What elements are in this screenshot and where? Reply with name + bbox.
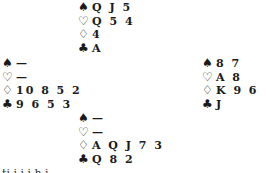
spade-icon: ♠ [78, 112, 92, 126]
heart-icon: ♡ [78, 15, 92, 29]
north-spades: ♠Q J 5 [78, 1, 135, 15]
diamond-icon: ♢ [78, 28, 92, 42]
north-hand: ♠Q J 5 ♡Q 5 4 ♢4 ♣A [78, 1, 135, 55]
west-hearts: ♡— [2, 71, 82, 85]
club-icon: ♣ [2, 98, 16, 112]
south-hand: ♠— ♡— ♢A Q J 7 3 ♣Q 8 2 [78, 112, 164, 166]
spade-icon: ♠ [202, 57, 216, 71]
west-hand: ♠— ♡— ♢10 8 5 2 ♣9 6 5 3 [2, 57, 82, 111]
west-spades: ♠— [2, 57, 82, 71]
east-hand: ♠8 7 ♡A 8 ♢K 9 6 ♣J [202, 57, 259, 111]
club-icon: ♣ [202, 98, 216, 112]
south-hearts: ♡— [78, 126, 164, 140]
heart-icon: ♡ [78, 126, 92, 140]
south-diamonds: ♢A Q J 7 3 [78, 139, 164, 153]
west-diamonds: ♢10 8 5 2 [2, 84, 82, 98]
spade-icon: ♠ [78, 1, 92, 15]
heart-icon: ♡ [2, 71, 16, 85]
north-diamonds: ♢4 [78, 28, 135, 42]
north-hearts: ♡Q 5 4 [78, 15, 135, 29]
cut-off-caption: ti i i i h i [2, 167, 49, 173]
south-spades: ♠— [78, 112, 164, 126]
east-spades: ♠8 7 [202, 57, 259, 71]
diamond-icon: ♢ [78, 139, 92, 153]
spade-icon: ♠ [2, 57, 16, 71]
east-diamonds: ♢K 9 6 [202, 84, 259, 98]
east-clubs: ♣J [202, 98, 259, 112]
south-clubs: ♣Q 8 2 [78, 153, 164, 167]
north-clubs: ♣A [78, 42, 135, 56]
east-hearts: ♡A 8 [202, 71, 259, 85]
diamond-icon: ♢ [2, 84, 16, 98]
heart-icon: ♡ [202, 71, 216, 85]
club-icon: ♣ [78, 42, 92, 56]
west-clubs: ♣9 6 5 3 [2, 98, 82, 112]
diamond-icon: ♢ [202, 84, 216, 98]
club-icon: ♣ [78, 153, 92, 167]
